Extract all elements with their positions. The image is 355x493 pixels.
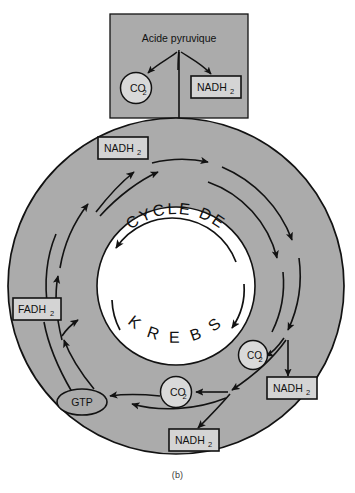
nadh2-pyruvate-label: NADH	[197, 81, 227, 93]
diagram-canvas: Acide pyruvique CO 2 NADH 2	[0, 0, 355, 493]
node-gtp: GTP	[57, 389, 107, 415]
figure-caption: (b)	[0, 470, 355, 480]
co2-bottom-center-sub: 2	[183, 392, 187, 401]
nadh2-right-sub: 2	[306, 388, 310, 397]
gtp-label: GTP	[71, 396, 93, 408]
nadh2-pyruvate-sub: 2	[230, 87, 234, 96]
node-co2-pyruvate: CO 2	[121, 73, 152, 104]
nadh2-bottom-label: NADH	[175, 434, 205, 446]
nadh2-top-left-label: NADH	[104, 142, 134, 154]
node-fadh2-left: FADH 2	[13, 298, 61, 320]
node-co2-right: CO 2	[239, 341, 268, 370]
nadh2-bottom-sub: 2	[208, 440, 212, 449]
node-co2-bottom-center: CO 2	[161, 377, 192, 408]
nadh2-right-label: NADH	[273, 382, 303, 394]
co2-right-sub: 2	[259, 355, 263, 364]
nadh2-top-left-sub: 2	[137, 148, 141, 157]
node-nadh2-right: NADH 2	[267, 377, 317, 399]
node-nadh2-bottom: NADH 2	[169, 429, 219, 451]
krebs-cycle-figure: Acide pyruvique CO 2 NADH 2	[0, 0, 355, 493]
fadh2-left-label: FADH	[18, 303, 46, 315]
fadh2-left-sub: 2	[50, 309, 54, 318]
node-nadh2-pyruvate: NADH 2	[191, 76, 241, 98]
co2-pyruvate-sub: 2	[143, 88, 147, 97]
pyruvic-acid-label: Acide pyruvique	[142, 32, 217, 44]
node-nadh2-top-left: NADH 2	[98, 137, 148, 159]
